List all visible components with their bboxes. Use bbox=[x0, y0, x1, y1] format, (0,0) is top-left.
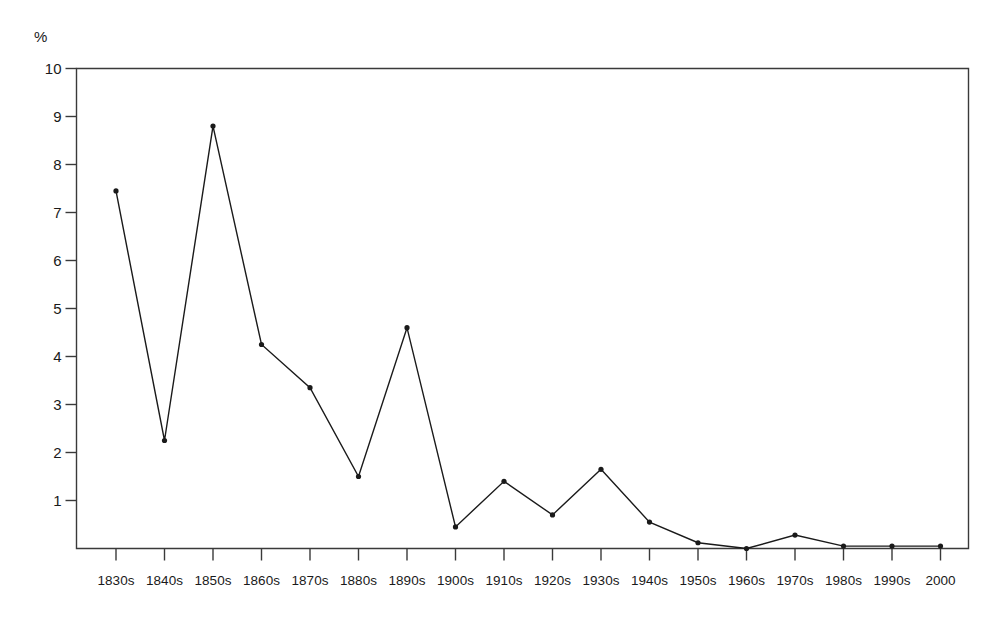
line-chart: % 10987654321 1830s1840s1850s1860s1870s1… bbox=[0, 0, 1005, 625]
x-axis-tick-marks bbox=[116, 549, 941, 561]
plot-area bbox=[0, 0, 1005, 625]
y-axis-tick-marks bbox=[66, 69, 77, 501]
data-series-line bbox=[116, 126, 941, 548]
data-point-markers bbox=[113, 124, 943, 552]
